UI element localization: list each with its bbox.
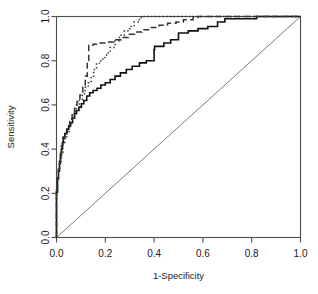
y-tick-label: 0.2 [40, 186, 51, 200]
roc-chart-figure: 0.00.20.40.60.81.0 0.00.20.40.60.81.0 1-… [0, 0, 318, 294]
x-tick-label: 0.8 [245, 248, 259, 259]
x-tick-label: 1.0 [294, 248, 308, 259]
x-tick-label: 0.2 [98, 248, 112, 259]
x-tick-label: 0.4 [147, 248, 161, 259]
y-axis-ticks: 0.00.20.40.60.81.0 [40, 9, 56, 244]
y-tick-label: 1.0 [40, 9, 51, 23]
y-axis-title: Sensitivity [5, 105, 16, 148]
y-tick-label: 0.8 [40, 53, 51, 67]
x-axis-title: 1-Specificity [153, 270, 204, 281]
roc-plot-canvas: 0.00.20.40.60.81.0 0.00.20.40.60.81.0 1-… [0, 0, 318, 294]
x-tick-label: 0.0 [50, 248, 64, 259]
y-tick-label: 0.0 [40, 230, 51, 244]
x-tick-label: 0.6 [196, 248, 210, 259]
reference-diagonal-line [57, 17, 301, 238]
y-tick-label: 0.6 [40, 98, 51, 112]
y-tick-label: 0.4 [40, 142, 51, 156]
x-axis-ticks: 0.00.20.40.60.81.0 [50, 238, 308, 259]
chance-diagonal-path [57, 17, 301, 238]
